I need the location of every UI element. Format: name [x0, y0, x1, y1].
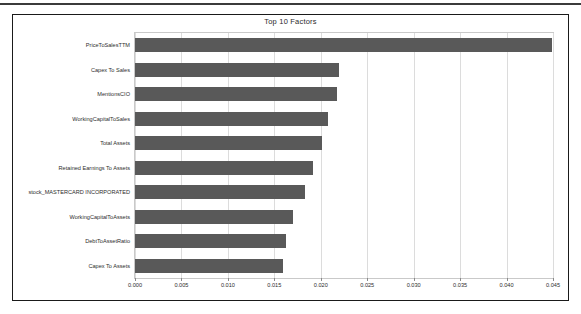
x-tick-mark: [460, 278, 461, 281]
x-tick-mark: [228, 278, 229, 281]
top-divider-rule: [0, 3, 581, 5]
y-axis-label: Capex To Assets: [88, 263, 130, 269]
y-axis-label: PriceToSalesTTM: [86, 42, 130, 48]
x-tick-label: 0.010: [221, 282, 235, 288]
y-axis-label: stock_MASTERCARD INCORPORATED: [28, 189, 130, 195]
x-tick-mark: [553, 278, 554, 281]
y-axis-label: Capex To Sales: [91, 67, 130, 73]
screenshot-root: Top 10 Factors PriceToSalesTTMCapex To S…: [0, 0, 581, 314]
x-tick-label: 0.035: [453, 282, 467, 288]
x-tick-mark: [181, 278, 182, 281]
x-tick-label: 0.030: [407, 282, 421, 288]
y-axis-label: WorkingCapitalToSales: [72, 116, 130, 122]
x-tick-mark: [367, 278, 368, 281]
x-tick-label: 0.025: [360, 282, 374, 288]
plot-area: PriceToSalesTTMCapex To SalesMentionsCIO…: [134, 32, 554, 279]
y-axis-label: Total Assets: [100, 140, 130, 146]
x-tick-mark: [414, 278, 415, 281]
x-tick-label: 0.040: [500, 282, 514, 288]
y-axis-label: WorkingCapitalToAssets: [69, 214, 130, 220]
x-tick-label: 0.045: [546, 282, 560, 288]
y-axis-label: DebtToAssetRatio: [85, 238, 130, 244]
chart-figure: Top 10 Factors PriceToSalesTTMCapex To S…: [12, 14, 569, 301]
x-tick-label: 0.000: [128, 282, 142, 288]
x-tick-mark: [507, 278, 508, 281]
x-axis-ticks-group: 0.0000.0050.0100.0150.0200.0250.0300.035…: [135, 33, 553, 278]
x-tick-mark: [135, 278, 136, 281]
y-axis-label: Retained Earnings To Assets: [59, 165, 130, 171]
x-tick-mark: [274, 278, 275, 281]
x-tick-label: 0.005: [174, 282, 188, 288]
x-tick-label: 0.020: [314, 282, 328, 288]
y-axis-label: MentionsCIO: [97, 91, 130, 97]
x-tick-label: 0.015: [267, 282, 281, 288]
x-tick-mark: [321, 278, 322, 281]
chart-title: Top 10 Factors: [13, 17, 568, 26]
gridline: [553, 33, 554, 278]
